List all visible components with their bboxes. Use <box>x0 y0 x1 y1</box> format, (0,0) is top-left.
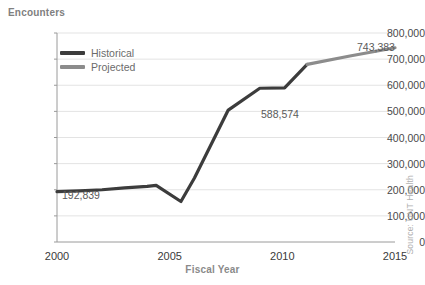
legend-swatch-projected <box>60 65 85 69</box>
y-tick-label: 800,000 <box>373 27 425 39</box>
y-tick-label: 600,000 <box>373 79 425 91</box>
legend-label-historical: Historical <box>91 47 134 59</box>
legend-item-projected: Projected <box>60 60 135 74</box>
x-tick-label: 2000 <box>45 250 69 262</box>
legend-item-historical: Historical <box>60 46 135 60</box>
y-tick-label: 400,000 <box>373 132 425 144</box>
legend-swatch-historical <box>60 51 85 55</box>
data-point-label: 743,383 <box>357 41 395 53</box>
y-tick-label: 100,000 <box>373 210 425 222</box>
source-note: Source: UNT Health <box>405 175 415 255</box>
y-tick-label: 300,000 <box>373 158 425 170</box>
y-tick-label: 700,000 <box>373 53 425 65</box>
y-tick-label: 200,000 <box>373 184 425 196</box>
y-tick-label: 500,000 <box>373 105 425 117</box>
x-axis-title: Fiscal Year <box>0 264 425 275</box>
data-point-label: 192,839 <box>62 189 100 201</box>
x-tick-label: 2015 <box>383 250 407 262</box>
legend-label-projected: Projected <box>91 61 135 73</box>
y-tick-label: 0 <box>373 236 425 248</box>
x-tick-label: 2005 <box>157 250 181 262</box>
x-tick-label: 2010 <box>270 250 294 262</box>
chart-legend: Historical Projected <box>60 46 135 74</box>
data-point-label: 588,574 <box>261 108 299 120</box>
encounters-line-chart: Encounters 0100,000200,000300,000400,000… <box>0 0 425 285</box>
